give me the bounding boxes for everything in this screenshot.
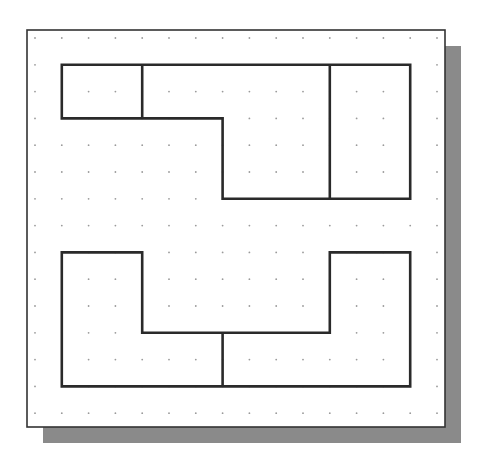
grid-dot	[61, 225, 63, 227]
grid-dot	[34, 37, 36, 39]
grid-dot	[115, 412, 117, 414]
grid-dot	[383, 91, 385, 93]
grid-dot	[436, 252, 438, 254]
grid-dot	[302, 91, 304, 93]
grid-dot	[168, 278, 170, 280]
grid-dot	[61, 198, 63, 200]
grid-dot	[168, 144, 170, 146]
grid-dot	[302, 118, 304, 120]
grid-dot	[275, 305, 277, 307]
grid-dot	[168, 412, 170, 414]
grid-dot	[436, 37, 438, 39]
grid-dot	[61, 412, 63, 414]
grid-dot	[329, 37, 331, 39]
grid-dot	[436, 359, 438, 361]
grid-dot	[34, 332, 36, 334]
grid-dot	[141, 225, 143, 227]
grid-dot	[329, 412, 331, 414]
grid-dot	[409, 412, 411, 414]
grid-dot	[249, 171, 251, 173]
grid-dot	[356, 118, 358, 120]
grid-dot	[409, 37, 411, 39]
grid-dot	[436, 278, 438, 280]
grid-dot	[222, 225, 224, 227]
grid-dot	[34, 198, 36, 200]
grid-dot	[356, 412, 358, 414]
grid-dot	[195, 412, 197, 414]
grid-dot	[34, 305, 36, 307]
grid-dot	[195, 198, 197, 200]
grid-dot	[61, 171, 63, 173]
grid-dot	[383, 278, 385, 280]
grid-dot	[195, 144, 197, 146]
grid-dot	[34, 171, 36, 173]
grid-dot	[115, 198, 117, 200]
grid-dot	[34, 225, 36, 227]
grid-dot	[383, 171, 385, 173]
grid-dot	[275, 91, 277, 93]
grid-dot	[436, 118, 438, 120]
grid-dot	[141, 144, 143, 146]
grid-dot	[141, 412, 143, 414]
grid-dot	[436, 412, 438, 414]
grid-dot	[249, 91, 251, 93]
grid-dot	[302, 37, 304, 39]
grid-dot	[302, 252, 304, 254]
grid-dot	[302, 225, 304, 227]
grid-dot	[249, 252, 251, 254]
grid-dot	[168, 225, 170, 227]
grid-dot	[115, 305, 117, 307]
grid-dot	[383, 305, 385, 307]
grid-dot	[383, 359, 385, 361]
grid-dot	[88, 412, 90, 414]
grid-dot	[302, 144, 304, 146]
grid-dot	[222, 252, 224, 254]
grid-dot	[88, 171, 90, 173]
grid-dot	[275, 171, 277, 173]
grid-dot	[436, 305, 438, 307]
grid-dot	[88, 332, 90, 334]
grid-dot	[356, 305, 358, 307]
grid-dot	[61, 144, 63, 146]
grid-dot	[436, 225, 438, 227]
grid-dot	[356, 37, 358, 39]
grid-dot	[436, 198, 438, 200]
grid-dot	[249, 412, 251, 414]
grid-dot	[383, 225, 385, 227]
grid-dot	[88, 305, 90, 307]
grid-dot	[115, 144, 117, 146]
grid-dot	[168, 359, 170, 361]
grid-dot	[356, 359, 358, 361]
grid-dot	[356, 144, 358, 146]
grid-dot	[195, 252, 197, 254]
grid-dot	[275, 278, 277, 280]
grid-dot	[88, 198, 90, 200]
grid-dot	[249, 278, 251, 280]
grid-dot	[195, 37, 197, 39]
grid-dot	[302, 412, 304, 414]
grid-dot	[141, 37, 143, 39]
grid-dot	[88, 359, 90, 361]
grid-dot	[222, 91, 224, 93]
grid-dot	[249, 225, 251, 227]
grid-dot	[141, 171, 143, 173]
grid-dot	[222, 305, 224, 307]
grid-dot	[275, 225, 277, 227]
grid-dot	[356, 332, 358, 334]
grid-dot	[329, 359, 331, 361]
grid-dot	[34, 64, 36, 66]
grid-dot	[436, 171, 438, 173]
grid-dot	[34, 359, 36, 361]
grid-dot	[383, 332, 385, 334]
grid-dot	[195, 305, 197, 307]
grid-diagram-canvas	[0, 0, 477, 471]
grid-dot	[275, 359, 277, 361]
grid-dot	[436, 386, 438, 388]
grid-dot	[249, 37, 251, 39]
grid-dot	[115, 278, 117, 280]
grid-dot	[61, 37, 63, 39]
grid-dot	[302, 171, 304, 173]
grid-dot	[115, 332, 117, 334]
grid-dot	[436, 144, 438, 146]
grid-dot	[115, 37, 117, 39]
